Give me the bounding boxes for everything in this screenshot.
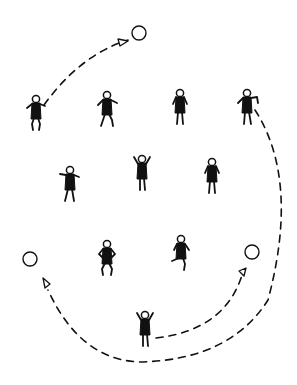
- drill-diagram: [0, 0, 297, 385]
- player-figure-icon: [137, 311, 153, 346]
- arrowhead-icon: [239, 268, 246, 276]
- dashed-path-right-inner-arc: [156, 275, 242, 338]
- arrowhead-icon: [43, 278, 50, 288]
- player-figure-icon: [205, 158, 219, 193]
- player-figure-icon: [173, 89, 187, 124]
- cone-circle-icon: [245, 245, 259, 259]
- player-figure-icon: [172, 235, 189, 270]
- dashed-path-right-outer-arc: [48, 110, 281, 362]
- player-figure-icon: [98, 91, 117, 126]
- player-figure-icon: [238, 89, 258, 124]
- player-figures: [27, 89, 258, 346]
- player-figure-icon: [60, 166, 79, 201]
- cone-circle-icon: [23, 252, 37, 266]
- arrowhead-icon: [118, 39, 128, 46]
- dashed-path-top-left-arc: [44, 40, 128, 105]
- player-figure-icon: [134, 155, 150, 190]
- cone-circle-icon: [132, 26, 146, 40]
- movement-paths: [44, 40, 281, 362]
- player-figure-icon: [99, 240, 115, 275]
- player-figure-icon: [27, 95, 45, 130]
